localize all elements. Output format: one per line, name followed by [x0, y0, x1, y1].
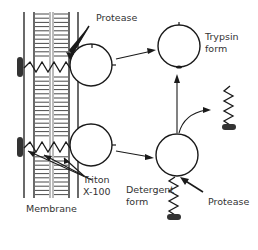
- arrow-top-to-trypsin: [116, 51, 152, 59]
- arrow-to-released-anchor: [179, 110, 206, 133]
- protease-top-label: Protease: [96, 12, 137, 23]
- arrowhead-icon: [203, 107, 211, 113]
- diagram-canvas: Protease Trypsin form Triton X-100 Membr…: [0, 0, 258, 250]
- arrow-bottom-to-detergent: [116, 151, 150, 157]
- arrowhead-icon: [145, 154, 154, 160]
- trypsin-form-label-line2: form: [205, 43, 227, 54]
- arrowhead-icon: [147, 48, 156, 54]
- trypsin-form-stub-icon: [176, 65, 182, 68]
- detergent-anchor-zigzag: [169, 177, 178, 215]
- detergent-form-label-line2: form: [126, 196, 148, 207]
- figure-caption: [0, 240, 258, 250]
- bound-enzyme-top: [70, 44, 112, 86]
- released-anchor-cap-icon: [222, 124, 236, 130]
- triton-label-line1: Triton: [83, 174, 110, 185]
- membrane-label: Membrane: [26, 203, 77, 214]
- membrane-anchor-zigzag-top: [24, 62, 70, 72]
- anchor-cap-top-icon: [17, 57, 23, 77]
- trypsin-form-label-line1: Trypsin: [205, 31, 239, 42]
- released-anchor-zigzag: [224, 86, 233, 125]
- bound-enzyme-bottom: [70, 124, 112, 166]
- triton-arrowhead-icon: [28, 151, 36, 157]
- trypsin-form-circle: [158, 25, 200, 67]
- arrowhead-icon: [174, 74, 180, 83]
- anchor-cap-bottom-icon: [17, 137, 23, 157]
- protease-arrowhead-bottom-icon: [180, 177, 189, 185]
- protease-bottom-label: Protease: [208, 196, 249, 207]
- detergent-form-circle: [156, 134, 198, 176]
- triton-label-line2: X-100: [83, 186, 111, 197]
- detergent-form-label-line1: Detergent: [126, 184, 174, 195]
- membrane-anchor-zigzag-bottom: [24, 142, 70, 152]
- detergent-anchor-cap-icon: [167, 214, 181, 220]
